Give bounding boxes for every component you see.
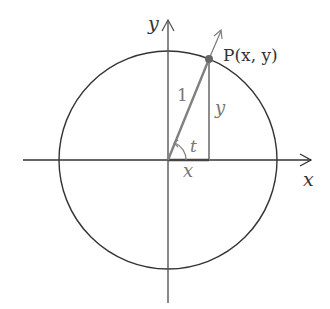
x-axis-label: x xyxy=(303,168,314,190)
point-label: P(x, y) xyxy=(223,45,278,65)
hypotenuse xyxy=(168,59,209,160)
y-axis-label: y xyxy=(147,12,159,34)
angle-label: t xyxy=(190,136,197,156)
adjacent-label: x xyxy=(183,160,193,181)
unit-circle-diagram: y x P(x, y) 1 y x t xyxy=(0,0,330,309)
point-P xyxy=(205,55,213,63)
hypotenuse-label: 1 xyxy=(177,85,188,105)
opposite-label: y xyxy=(214,97,226,118)
